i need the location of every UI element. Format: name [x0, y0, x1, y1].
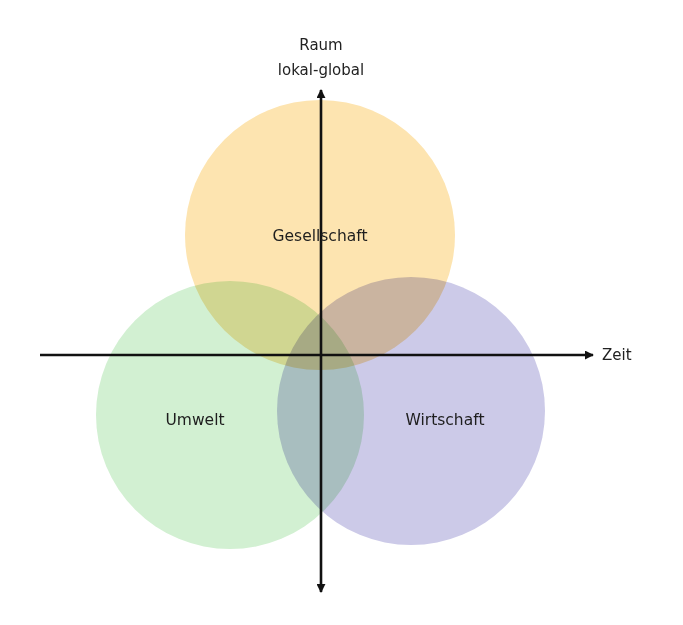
label-gesellschaft: Gesellschaft: [273, 227, 368, 245]
label-wirtschaft: Wirtschaft: [406, 411, 485, 429]
axis-label-zeit: Zeit: [602, 346, 632, 364]
axis-label-lokal-global: lokal-global: [278, 61, 364, 79]
label-umwelt: Umwelt: [165, 411, 224, 429]
sustainability-venn-diagram: Raum lokal-global Zeit Gesellschaft Umwe…: [0, 0, 683, 625]
axis-label-raum: Raum: [299, 36, 342, 54]
